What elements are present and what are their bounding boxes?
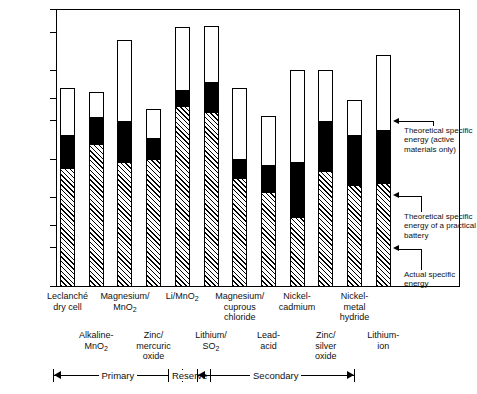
x-axis-label-lead-acid: Lead-acid bbox=[235, 330, 301, 351]
bar-li-mno2[interactable] bbox=[175, 27, 190, 287]
bar-segment-practical bbox=[377, 130, 390, 183]
bar-segment-practical bbox=[61, 135, 74, 168]
x-axis-label-zinc-silver-oxide: Zinc/silveroxide bbox=[293, 330, 359, 362]
bar-segment-practical bbox=[291, 162, 304, 217]
bar-zinc-mercuric-oxide[interactable] bbox=[146, 109, 161, 288]
bar-magnesium-mno2[interactable] bbox=[117, 40, 132, 287]
bar-segment-practical bbox=[147, 138, 160, 159]
group-bracket-label: Primary bbox=[53, 369, 183, 382]
x-axis-label-nickel-metal-hydride: Nickel-metalhydride bbox=[322, 291, 388, 323]
bar-segment-practical bbox=[90, 117, 103, 145]
bar-segment-actual bbox=[319, 171, 332, 286]
bar-segment-actual bbox=[61, 168, 74, 286]
bar-nickel-cadmium[interactable] bbox=[290, 70, 305, 287]
group-bracket-primary: Primary bbox=[53, 369, 183, 382]
bar-segment-actual bbox=[147, 159, 160, 286]
legend-leader-horizontal bbox=[399, 249, 421, 250]
x-axis-label-li-mno2: Li/MnO2 bbox=[149, 291, 215, 303]
bar-segment-practical bbox=[319, 121, 332, 172]
x-axis-label-lithium-ion: Lithium-ion bbox=[350, 330, 416, 351]
bar-segment-practical bbox=[233, 159, 246, 179]
group-bracket-label: Secondary bbox=[197, 369, 356, 382]
bar-segment-actual bbox=[348, 185, 361, 286]
bar-segment-practical bbox=[118, 121, 131, 162]
bar-segment-actual bbox=[377, 183, 390, 286]
bar-segment-actual bbox=[205, 112, 218, 286]
bar-lead-acid[interactable] bbox=[261, 116, 276, 287]
x-axis-label-lithium-so2: Lithium/SO2 bbox=[178, 330, 244, 352]
bar-segment-actual bbox=[118, 162, 131, 286]
legend-leader-horizontal bbox=[399, 196, 421, 197]
bar-leclanche-dry-cell[interactable] bbox=[60, 88, 75, 287]
bar-alkaline-mno2[interactable] bbox=[89, 92, 104, 288]
legend-leader-horizontal bbox=[399, 121, 433, 122]
bar-segment-practical bbox=[262, 165, 275, 192]
x-axis-label-magnesium-cuprous-chloride: Magnesium/cuprouschloride bbox=[207, 291, 273, 323]
chart-root: Watthours/kilogram 150010005003002001005… bbox=[0, 0, 477, 394]
bar-lithium-so2[interactable] bbox=[204, 26, 219, 287]
x-axis-label-nickel-cadmium: Nickel-cadmium bbox=[264, 291, 330, 312]
bar-segment-practical bbox=[348, 135, 361, 186]
bar-segment-actual bbox=[233, 178, 246, 286]
legend-leader-vertical bbox=[421, 196, 422, 212]
legend-label-theoretical-active-materials: Theoretical specific energy (active mate… bbox=[404, 126, 477, 154]
legend-label-theoretical-practical-battery: Theoretical specific energy of a practic… bbox=[404, 212, 477, 240]
bar-segment-actual bbox=[176, 106, 189, 286]
bar-segment-actual bbox=[291, 217, 304, 286]
x-axis-label-zinc-mercuric-oxide: Zinc/mercuricoxide bbox=[121, 330, 187, 362]
legend-label-actual-specific-energy: Actual specific energy bbox=[404, 270, 477, 289]
legend-leader-vertical bbox=[421, 249, 422, 270]
x-axis-label-magnesium-mno2: Magnesium/MnO2 bbox=[92, 291, 158, 313]
bar-segment-actual bbox=[262, 192, 275, 286]
bar-magnesium-cuprous-chloride[interactable] bbox=[232, 88, 247, 287]
bar-segment-actual bbox=[90, 144, 103, 286]
bar-segment-practical bbox=[205, 82, 218, 111]
bar-segment-practical bbox=[176, 90, 189, 106]
bar-nickel-metal-hydride[interactable] bbox=[347, 100, 362, 287]
x-axis-label-alkaline-mno2: Alkaline-MnO2 bbox=[63, 330, 129, 352]
bar-zinc-silver-oxide[interactable] bbox=[318, 70, 333, 287]
group-bracket-secondary: Secondary bbox=[197, 369, 356, 382]
x-axis-label-leclanche-dry-cell: Leclanchédry cell bbox=[35, 291, 101, 312]
bar-lithium-ion[interactable] bbox=[376, 55, 391, 287]
